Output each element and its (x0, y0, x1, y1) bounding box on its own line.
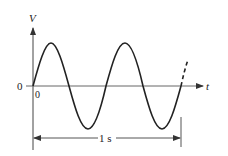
x-axis-label: t (206, 80, 210, 92)
y-axis-label: V (29, 12, 37, 24)
sine-continuation-dashed (181, 60, 188, 86)
period-label: 1 s (99, 132, 112, 144)
sine-wave-diagram: V t 0 0 1 s (0, 0, 228, 156)
origin-y-label: 0 (17, 80, 23, 92)
origin-x-label: 0 (35, 89, 40, 100)
